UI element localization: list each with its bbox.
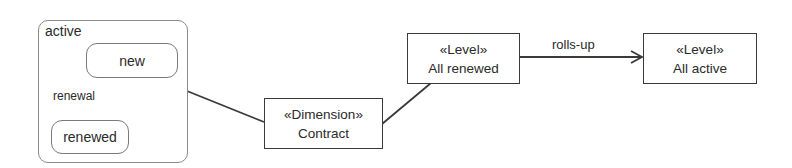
state-new[interactable]: new bbox=[86, 43, 178, 78]
level-all-active-name: All active bbox=[673, 59, 727, 78]
level-all-renewed-stereotype: «Level» bbox=[440, 40, 487, 59]
state-new-label: new bbox=[119, 53, 145, 69]
level-all-active-stereotype: «Level» bbox=[676, 40, 723, 59]
dimension-stereotype: «Dimension» bbox=[284, 105, 363, 124]
level-all-active-box[interactable]: «Level» All active bbox=[643, 33, 757, 84]
level-all-renewed-box[interactable]: «Level» All renewed bbox=[407, 33, 520, 84]
rolls-up-label: rolls-up bbox=[552, 37, 595, 52]
contract-level-association bbox=[382, 83, 431, 124]
composite-state-label: active bbox=[45, 23, 82, 39]
state-renewed[interactable]: renewed bbox=[51, 120, 129, 154]
dimension-contract-box[interactable]: «Dimension» Contract bbox=[264, 98, 383, 149]
level-all-renewed-name: All renewed bbox=[428, 59, 499, 78]
renewal-transition-label: renewal bbox=[53, 89, 95, 103]
dimension-name: Contract bbox=[298, 124, 349, 143]
active-contract-association bbox=[187, 91, 264, 122]
state-renewed-label: renewed bbox=[63, 129, 117, 145]
